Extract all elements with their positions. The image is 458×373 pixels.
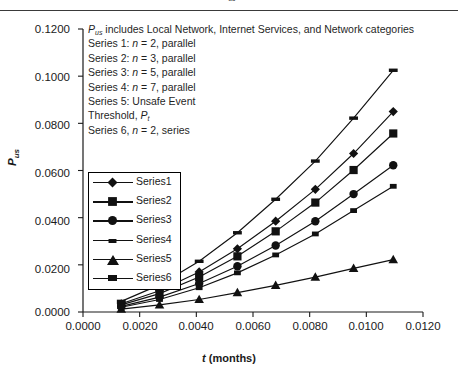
series-marker-series4 — [233, 231, 242, 234]
annotation-line-6: Series 5: Unsafe Event — [88, 94, 414, 108]
y-tick-label: 0.1200 — [18, 24, 70, 35]
series-marker-series5 — [388, 255, 398, 263]
series-marker-series2 — [349, 166, 357, 174]
series-marker-series1 — [233, 244, 242, 253]
chart-figure: Pus Pus t (months) 0.1200 0.1000 0.0800 … — [0, 0, 458, 373]
legend-item-series1[interactable]: Series1 — [89, 173, 180, 192]
small-square-marker-icon — [108, 275, 117, 281]
legend-label: Series6 — [136, 271, 172, 283]
series-marker-series6 — [272, 253, 279, 258]
annotation-line-5: Series 4: n = 7, parallel — [88, 80, 414, 94]
series-marker-series3 — [271, 241, 279, 249]
series-marker-series3 — [389, 161, 397, 169]
annotation-line-1: Pus includes Local Network, Internet Ser… — [88, 22, 414, 36]
series-marker-series4 — [117, 300, 126, 303]
series-marker-series6 — [390, 184, 397, 189]
series-marker-series3 — [233, 262, 241, 270]
x-tick-label: 0.0120 — [393, 321, 453, 332]
y-tick-label: 0.0800 — [18, 120, 70, 131]
series-marker-series4 — [271, 198, 280, 201]
legend-item-series2[interactable]: Series2 — [89, 192, 180, 211]
y-tick-label: 0.0200 — [18, 264, 70, 275]
legend-label: Series1 — [136, 175, 172, 187]
annotation-line-3: Series 2: n = 3, parallel — [88, 51, 414, 65]
chart-legend[interactable]: Series1 Series2 Series3 Series4 Series5 … — [88, 172, 181, 290]
annotation-line-8: Series 6, n = 2, series — [88, 123, 414, 137]
legend-item-series4[interactable]: Series4 — [89, 231, 180, 250]
series-marker-series2 — [233, 252, 241, 260]
circle-marker-icon — [108, 216, 117, 225]
annotation-line-7: Threshold, Pt — [88, 108, 414, 122]
series-marker-series3 — [349, 190, 357, 198]
y-tick-label: 0.1000 — [18, 72, 70, 83]
series-marker-series4 — [311, 159, 320, 162]
x-tick-label: 0.0100 — [336, 321, 396, 332]
legend-item-series6[interactable]: Series6 — [89, 269, 180, 288]
x-tick-label: 0.0040 — [166, 321, 226, 332]
series-marker-series6 — [156, 297, 163, 302]
series-marker-series2 — [272, 227, 280, 235]
series-marker-series6 — [312, 232, 319, 237]
triangle-marker-icon — [107, 255, 119, 265]
diamond-marker-icon — [108, 178, 118, 188]
dash-marker-icon — [109, 239, 117, 243]
y-tick-label: 0.0000 — [18, 307, 70, 318]
series-marker-series6 — [196, 285, 203, 290]
series-marker-series4 — [195, 260, 204, 263]
series-marker-series3 — [311, 217, 319, 225]
legend-label: Series4 — [136, 233, 172, 245]
series-marker-series6 — [350, 208, 357, 213]
legend-item-series5[interactable]: Series5 — [89, 250, 180, 269]
annotation-line-2: Series 1: n = 2, parallel — [88, 36, 414, 50]
chart-annotation-block: Pus includes Local Network, Internet Ser… — [88, 22, 414, 137]
y-tick-label: 0.0400 — [18, 216, 70, 227]
series-marker-series6 — [118, 305, 125, 310]
legend-item-series3[interactable]: Series3 — [89, 211, 180, 230]
x-tick-label: 0.0080 — [280, 321, 340, 332]
legend-label: Series5 — [136, 252, 172, 264]
x-tick-label: 0.0060 — [223, 321, 283, 332]
square-marker-icon — [108, 197, 117, 206]
x-tick-label: 0.0000 — [53, 321, 113, 332]
series-marker-series6 — [234, 270, 241, 275]
legend-label: Series2 — [136, 194, 172, 206]
y-tick-label: 0.0600 — [18, 168, 70, 179]
series-marker-series2 — [311, 198, 319, 206]
x-tick-label: 0.0020 — [110, 321, 170, 332]
annotation-line-4: Series 3: n = 5, parallel — [88, 65, 414, 79]
legend-label: Series3 — [136, 213, 172, 225]
